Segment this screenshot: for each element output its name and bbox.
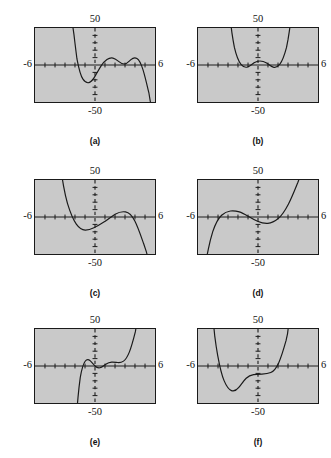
y-axis-min-label-f: -50	[163, 407, 325, 418]
panel-caption-f: (f)	[163, 437, 325, 447]
panel-caption-e: (e)	[0, 437, 162, 447]
y-axis-min-label-a: -50	[0, 106, 162, 117]
plot-area-a	[34, 27, 156, 103]
y-axis-max-label-a: 50	[0, 14, 162, 25]
chart-panel-f: 50 -6 6 -50	[163, 311, 325, 458]
plot-area-f	[197, 328, 319, 404]
plot-area-b	[197, 27, 319, 103]
plot-area-c	[34, 179, 156, 255]
chart-panel-c: 50 -6 6 -50	[0, 162, 162, 314]
y-axis-max-label-d: 50	[163, 166, 325, 177]
x-axis-min-label-d: -6	[173, 211, 195, 222]
x-axis-max-label-d: 6	[321, 211, 331, 222]
plot-area-e	[34, 328, 156, 404]
panel-caption-c: (c)	[0, 288, 162, 298]
y-axis-min-label-b: -50	[163, 106, 325, 117]
x-axis-min-label-f: -6	[173, 360, 195, 371]
panel-caption-a: (a)	[0, 136, 162, 146]
chart-panel-d: 50 -6 6 -50	[163, 162, 325, 314]
chart-panel-e: 50 -6 6 -50	[0, 311, 162, 458]
panel-caption-d: (d)	[163, 288, 325, 298]
y-axis-max-label-f: 50	[163, 315, 325, 326]
x-axis-max-label-b: 6	[321, 59, 331, 70]
x-axis-max-label-f: 6	[321, 360, 331, 371]
y-axis-min-label-d: -50	[163, 258, 325, 269]
x-axis-min-label-b: -6	[173, 59, 195, 70]
curve-f	[214, 329, 289, 391]
plot-area-d	[197, 179, 319, 255]
curve-b	[231, 28, 290, 67]
x-axis-min-label-a: -6	[10, 59, 32, 70]
y-axis-max-label-b: 50	[163, 14, 325, 25]
chart-panel-b: 50 -6 6 -50	[163, 10, 325, 162]
x-axis-min-label-c: -6	[10, 211, 32, 222]
y-axis-min-label-e: -50	[0, 407, 162, 418]
y-axis-max-label-e: 50	[0, 315, 162, 326]
panel-caption-b: (b)	[163, 136, 325, 146]
y-axis-min-label-c: -50	[0, 258, 162, 269]
x-axis-min-label-e: -6	[10, 360, 32, 371]
chart-panel-a: 50 -6 6 -50	[0, 10, 162, 162]
y-axis-max-label-c: 50	[0, 166, 162, 177]
